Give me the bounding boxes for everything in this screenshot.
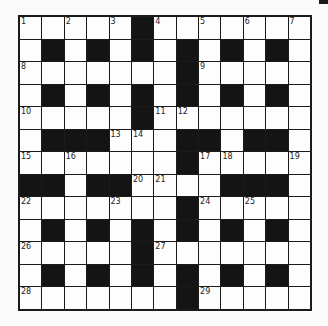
crossword-cell[interactable] xyxy=(154,197,175,219)
crossword-cell[interactable] xyxy=(221,17,242,39)
crossword-cell[interactable] xyxy=(110,107,131,129)
crossword-cell[interactable] xyxy=(20,265,41,287)
crossword-cell[interactable] xyxy=(42,62,63,84)
crossword-cell[interactable] xyxy=(289,107,310,129)
crossword-cell[interactable] xyxy=(110,152,131,174)
crossword-cell[interactable] xyxy=(65,197,86,219)
crossword-cell[interactable] xyxy=(244,287,265,309)
crossword-cell[interactable] xyxy=(20,220,41,242)
crossword-cell[interactable] xyxy=(65,287,86,309)
crossword-cell[interactable] xyxy=(87,62,108,84)
crossword-cell[interactable]: 21 xyxy=(154,175,175,197)
crossword-cell[interactable] xyxy=(87,242,108,264)
crossword-cell[interactable]: 20 xyxy=(132,175,153,197)
crossword-cell[interactable] xyxy=(177,242,198,264)
crossword-cell[interactable] xyxy=(266,62,287,84)
crossword-cell[interactable] xyxy=(244,152,265,174)
crossword-cell[interactable] xyxy=(87,152,108,174)
crossword-cell[interactable] xyxy=(289,287,310,309)
crossword-cell[interactable]: 14 xyxy=(132,130,153,152)
crossword-cell[interactable]: 9 xyxy=(199,62,220,84)
crossword-cell[interactable] xyxy=(199,265,220,287)
crossword-cell[interactable] xyxy=(87,197,108,219)
crossword-cell[interactable] xyxy=(110,265,131,287)
crossword-cell[interactable]: 19 xyxy=(289,152,310,174)
crossword-cell[interactable]: 15 xyxy=(20,152,41,174)
crossword-cell[interactable]: 8 xyxy=(20,62,41,84)
crossword-cell[interactable]: 28 xyxy=(20,287,41,309)
crossword-cell[interactable]: 17 xyxy=(199,152,220,174)
crossword-cell[interactable] xyxy=(20,85,41,107)
crossword-cell[interactable] xyxy=(244,62,265,84)
crossword-cell[interactable] xyxy=(42,242,63,264)
crossword-cell[interactable] xyxy=(65,265,86,287)
crossword-cell[interactable] xyxy=(110,62,131,84)
crossword-cell[interactable] xyxy=(42,17,63,39)
crossword-cell[interactable] xyxy=(65,40,86,62)
crossword-cell[interactable] xyxy=(244,40,265,62)
crossword-cell[interactable]: 7 xyxy=(289,17,310,39)
crossword-cell[interactable] xyxy=(42,107,63,129)
crossword-cell[interactable] xyxy=(65,175,86,197)
crossword-cell[interactable] xyxy=(154,40,175,62)
crossword-cell[interactable] xyxy=(199,175,220,197)
crossword-cell[interactable] xyxy=(244,220,265,242)
crossword-cell[interactable] xyxy=(199,40,220,62)
crossword-cell[interactable] xyxy=(154,287,175,309)
crossword-cell[interactable] xyxy=(289,40,310,62)
crossword-cell[interactable]: 5 xyxy=(199,17,220,39)
crossword-cell[interactable] xyxy=(65,242,86,264)
crossword-cell[interactable]: 12 xyxy=(177,107,198,129)
crossword-cell[interactable] xyxy=(199,85,220,107)
crossword-cell[interactable] xyxy=(221,242,242,264)
crossword-cell[interactable] xyxy=(289,62,310,84)
crossword-cell[interactable] xyxy=(221,130,242,152)
crossword-cell[interactable]: 25 xyxy=(244,197,265,219)
crossword-cell[interactable] xyxy=(110,220,131,242)
crossword-cell[interactable] xyxy=(65,62,86,84)
crossword-cell[interactable] xyxy=(266,287,287,309)
crossword-cell[interactable] xyxy=(154,62,175,84)
crossword-cell[interactable] xyxy=(244,242,265,264)
crossword-cell[interactable] xyxy=(177,17,198,39)
crossword-cell[interactable] xyxy=(65,85,86,107)
crossword-cell[interactable] xyxy=(289,220,310,242)
crossword-cell[interactable]: 16 xyxy=(65,152,86,174)
crossword-cell[interactable] xyxy=(289,85,310,107)
crossword-cell[interactable] xyxy=(154,85,175,107)
crossword-cell[interactable] xyxy=(244,265,265,287)
crossword-cell[interactable] xyxy=(154,220,175,242)
crossword-cell[interactable] xyxy=(132,152,153,174)
crossword-cell[interactable]: 1 xyxy=(20,17,41,39)
crossword-cell[interactable] xyxy=(221,62,242,84)
crossword-cell[interactable]: 22 xyxy=(20,197,41,219)
crossword-cell[interactable] xyxy=(132,287,153,309)
crossword-cell[interactable] xyxy=(266,242,287,264)
crossword-cell[interactable] xyxy=(110,242,131,264)
crossword-cell[interactable] xyxy=(42,152,63,174)
crossword-cell[interactable]: 24 xyxy=(199,197,220,219)
crossword-cell[interactable] xyxy=(20,40,41,62)
crossword-cell[interactable] xyxy=(42,197,63,219)
crossword-cell[interactable] xyxy=(289,242,310,264)
crossword-cell[interactable] xyxy=(244,85,265,107)
crossword-cell[interactable] xyxy=(221,197,242,219)
crossword-cell[interactable] xyxy=(289,175,310,197)
crossword-cell[interactable]: 6 xyxy=(244,17,265,39)
crossword-cell[interactable]: 13 xyxy=(110,130,131,152)
crossword-cell[interactable]: 23 xyxy=(110,197,131,219)
crossword-cell[interactable] xyxy=(154,130,175,152)
crossword-cell[interactable] xyxy=(65,220,86,242)
crossword-cell[interactable] xyxy=(221,287,242,309)
crossword-cell[interactable] xyxy=(87,287,108,309)
crossword-cell[interactable] xyxy=(266,197,287,219)
crossword-cell[interactable]: 26 xyxy=(20,242,41,264)
crossword-cell[interactable]: 29 xyxy=(199,287,220,309)
crossword-cell[interactable] xyxy=(199,242,220,264)
crossword-cell[interactable] xyxy=(110,287,131,309)
crossword-cell[interactable] xyxy=(110,40,131,62)
crossword-cell[interactable] xyxy=(154,265,175,287)
crossword-cell[interactable]: 3 xyxy=(110,17,131,39)
crossword-cell[interactable]: 11 xyxy=(154,107,175,129)
crossword-cell[interactable] xyxy=(266,107,287,129)
